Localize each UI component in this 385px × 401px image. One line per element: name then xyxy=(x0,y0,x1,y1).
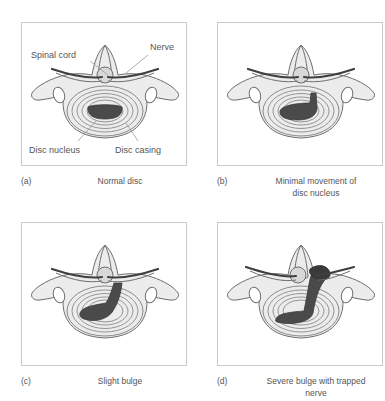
label-disc-casing: Disc casing xyxy=(115,145,161,155)
panel-d-caption: (d) Severe bulge with trapped nerve xyxy=(217,375,385,399)
spinal-cord xyxy=(293,67,309,83)
label-disc-nucleus: Disc nucleus xyxy=(29,145,81,155)
panel-a-caption-text: Normal disc xyxy=(51,175,189,187)
panel-a-caption: (a) Normal disc xyxy=(21,175,189,187)
panel-b-caption-text: Minimal movement of disc nucleus xyxy=(247,175,385,199)
vertebra-illustration-d xyxy=(227,245,374,338)
panel-c-tag: (c) xyxy=(21,375,51,387)
panel-a-image: Spinal cord Nerve Disc nucleus Disc casi… xyxy=(21,22,187,166)
panel-c-image xyxy=(21,222,187,366)
panel-c: (c) Slight bulge xyxy=(21,222,189,387)
panel-b-image xyxy=(217,22,383,166)
panel-d-caption-text: Severe bulge with trapped nerve xyxy=(247,375,385,399)
vertebra-illustration-c xyxy=(31,245,178,338)
vertebra-illustration-b xyxy=(227,45,374,138)
panel-b: (b) Minimal movement of disc nucleus xyxy=(217,22,385,199)
panel-b-caption: (b) Minimal movement of disc nucleus xyxy=(217,175,385,199)
panel-d: (d) Severe bulge with trapped nerve xyxy=(217,222,385,399)
panel-d-image xyxy=(217,222,383,366)
spinal-cord xyxy=(97,267,113,283)
label-nerve: Nerve xyxy=(150,42,174,52)
panel-c-caption-text: Slight bulge xyxy=(51,375,189,387)
panel-a: Spinal cord Nerve Disc nucleus Disc casi… xyxy=(21,22,189,187)
disc-nucleus xyxy=(88,105,122,119)
panel-c-caption: (c) Slight bulge xyxy=(21,375,189,387)
label-spinal-cord: Spinal cord xyxy=(31,50,76,60)
panel-d-tag: (d) xyxy=(217,375,247,387)
spinal-cord xyxy=(97,67,113,83)
vertebra-illustration-a: Spinal cord Nerve Disc nucleus Disc casi… xyxy=(29,42,179,155)
leader-nerve xyxy=(126,55,148,73)
panel-b-tag: (b) xyxy=(217,175,247,187)
panel-a-tag: (a) xyxy=(21,175,51,187)
